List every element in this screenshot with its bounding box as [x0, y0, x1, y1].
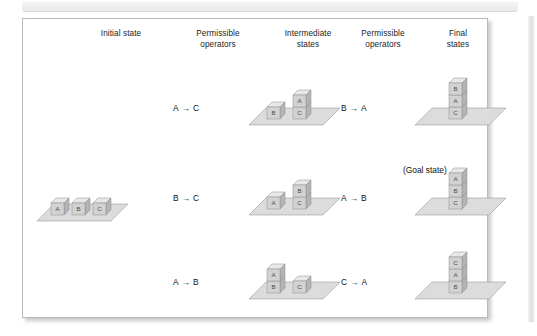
scene-row-2-intermediate: ACB	[245, 153, 341, 219]
svg-text:C: C	[453, 259, 458, 266]
blocks-world-figure: Initial state Permissible operators Inte…	[22, 18, 488, 318]
svg-text:B: B	[297, 187, 301, 194]
scene-row-3-final: BAC	[411, 237, 507, 303]
scene-row-2-final-svg: CBA	[411, 153, 507, 219]
scene-row-1-intermediate-svg: BCA	[245, 63, 341, 129]
arrow-right-icon: →	[182, 277, 190, 287]
svg-text:B: B	[76, 205, 80, 212]
operator-row-1-second: B→A	[341, 103, 367, 113]
block-pile: BA	[267, 264, 285, 293]
scene-row-2-final: CBA	[411, 153, 507, 219]
arrow-right-icon: →	[350, 103, 358, 113]
block-pile: B	[267, 102, 285, 119]
svg-text:C: C	[453, 109, 458, 116]
page-top-strip	[22, 2, 518, 12]
svg-text:C: C	[297, 109, 302, 116]
arrow-right-icon: →	[350, 193, 358, 203]
svg-text:C: C	[297, 283, 302, 290]
svg-text:C: C	[297, 199, 302, 206]
operator-row-1-first-to: C	[193, 103, 199, 113]
operator-row-3-first: A→B	[173, 277, 199, 287]
operator-row-2-first: B→C	[173, 193, 199, 203]
block-pile: CAB	[449, 78, 467, 119]
svg-text:B: B	[271, 109, 275, 116]
operator-row-1-first-from: A	[173, 103, 179, 113]
block-pile: C	[93, 198, 111, 215]
block-pile: CB	[293, 180, 311, 209]
scene-row-1-final: CAB	[411, 63, 507, 129]
operator-row-2-second-from: A	[341, 193, 347, 203]
block-pile: B	[72, 198, 90, 215]
operator-row-2-second: A→B	[341, 193, 367, 203]
operator-row-3-second-from: C	[341, 277, 347, 287]
scene-row-1-final-svg: CAB	[411, 63, 507, 129]
operator-row-3-first-to: B	[193, 277, 199, 287]
block-pile: CA	[293, 90, 311, 119]
block-pile: C	[293, 276, 311, 293]
scene-row-3-final-svg: BAC	[411, 237, 507, 303]
block-pile: A	[51, 198, 69, 215]
block-pile: A	[267, 192, 285, 209]
block-pile: CBA	[449, 168, 467, 209]
operator-row-2-first-from: B	[173, 193, 179, 203]
operator-row-3-first-from: A	[173, 277, 179, 287]
operator-row-2-second-to: B	[361, 193, 367, 203]
scene-initial-state: ABC	[33, 159, 129, 225]
scene-row-1-intermediate: BCA	[245, 63, 341, 129]
operator-row-2-first-to: C	[193, 193, 199, 203]
operator-row-1-first: A→C	[173, 103, 199, 113]
figure-canvas: ABCA→CBCAB→ACABB→CACBA→BCBA(Goal state)A…	[23, 19, 487, 317]
operator-row-3-second: C→A	[341, 277, 367, 287]
scene-row-3-intermediate: BAC	[245, 237, 341, 303]
arrow-right-icon: →	[182, 193, 190, 203]
svg-text:B: B	[453, 85, 457, 92]
scene-row-3-intermediate-svg: BAC	[245, 237, 341, 303]
goal-state-label: (Goal state)	[403, 165, 447, 175]
svg-text:C: C	[97, 205, 102, 212]
svg-text:C: C	[453, 199, 458, 206]
svg-text:B: B	[453, 187, 457, 194]
operator-row-1-second-from: B	[341, 103, 347, 113]
scene-initial-state-svg: ABC	[33, 159, 129, 225]
arrow-right-icon: →	[182, 103, 190, 113]
scene-row-2-intermediate-svg: ACB	[245, 153, 341, 219]
svg-text:B: B	[271, 283, 275, 290]
operator-row-3-second-to: A	[361, 277, 367, 287]
page-scroll-strip[interactable]	[528, 16, 535, 322]
svg-text:B: B	[453, 283, 457, 290]
operator-row-1-second-to: A	[361, 103, 367, 113]
arrow-right-icon: →	[350, 277, 358, 287]
block-pile: BAC	[449, 252, 467, 293]
